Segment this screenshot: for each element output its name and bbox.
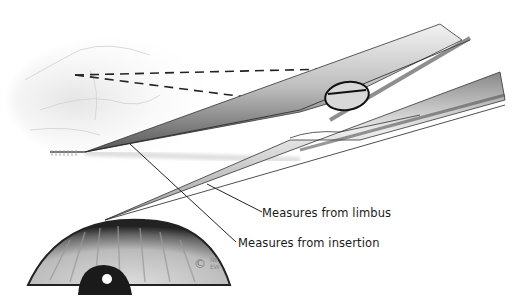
label-measures-from-insertion: Measures from insertion xyxy=(238,236,380,250)
copyright-mark: © xyxy=(194,257,206,271)
signature-bottom: EW xyxy=(210,263,220,270)
caliper-illustration xyxy=(0,0,521,301)
signature-top: NE xyxy=(210,256,220,263)
artist-signature: NE EW xyxy=(210,256,220,270)
label-measures-from-limbus: Measures from limbus xyxy=(262,206,391,220)
